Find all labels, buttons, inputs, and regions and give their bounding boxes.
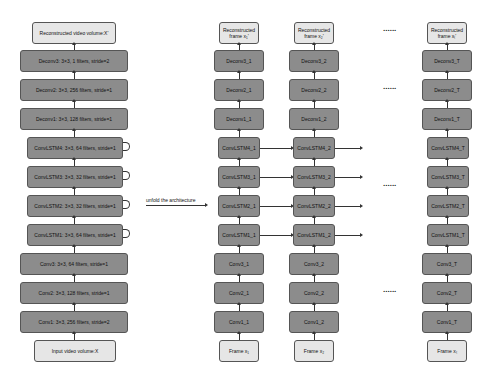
layer-conv3: Conv3: 3×3, 64 filters, stride=1 [20,253,128,275]
arrow-up [447,44,448,50]
ellipsis: ...... [383,24,396,33]
arrow-up [239,72,240,79]
arrow-up [74,246,75,253]
arrow-up [447,333,448,340]
arrow-up [447,159,448,166]
layer-deconv3: Deconv3: 3×3, 1 filters, stride=2 [20,50,128,72]
layer-conv3-2: Conv3_2 [289,253,339,275]
recurrent-loop-icon [123,229,130,238]
arrow-up [74,159,75,166]
layer-convlstm4: ConvLSTM4: 3×3, 64 filters, stride=1 [27,137,123,159]
layer-conv1: Conv1: 3×3, 256 filters, stride=2 [20,311,128,333]
layer-convlstm2-1: ConvLSTM2_1 [218,195,260,217]
arrow-up [239,275,240,282]
layer-convlstm2-2: ConvLSTM2_2 [293,195,335,217]
arrow-up [239,217,240,224]
layer-convlstm4-t: ConvLSTM4_T [427,137,469,159]
arrow-up [447,246,448,253]
arrow-up [314,333,315,340]
layer-deconv3-2: Deconv3_2 [289,50,339,72]
layer-convlstm3-2: ConvLSTM3_2 [293,166,335,188]
arrow-right [260,177,292,178]
layer-deconv3-1: Deconv3_1 [214,50,264,72]
arrow-up [74,275,75,282]
arrow-up [74,333,75,340]
arrow-right [260,235,292,236]
arrow-up [74,304,75,311]
arrow-right [260,148,292,149]
arrow-up [314,44,315,50]
layer-convlstm1-1: ConvLSTM1_1 [218,224,260,246]
arrow-up [314,304,315,311]
arrow-up [239,246,240,253]
arrow-right [260,206,292,207]
arrow-up [314,275,315,282]
arrow-right [335,235,361,236]
layer-deconv2-1: Deconv2_1 [214,79,264,101]
layer-deconv1-t: Deconv1_T [422,108,472,130]
arrow-up [239,101,240,108]
layer-deconv3-t: Deconv3_T [422,50,472,72]
arrow-up [314,188,315,195]
layer-conv1-t: Conv1_T [422,311,472,333]
layer-deconv2-2: Deconv2_2 [289,79,339,101]
layer-convlstm3-1: ConvLSTM3_1 [218,166,260,188]
layer-conv1-1: Conv1_1 [214,311,264,333]
arrow-up [447,72,448,79]
arrow-up [314,130,315,137]
arrow-up [239,333,240,340]
layer-convlstm1-2: ConvLSTM1_2 [293,224,335,246]
output-frame-t: Reconstructed frame xₜ' [427,22,467,44]
arrow-up [239,44,240,50]
layer-convlstm1: ConvLSTM1: 3×3, 64 filters, stride=1 [27,224,123,246]
layer-deconv2: Deconv2: 3×3, 256 filters, stride=1 [20,79,128,101]
input-frame-1: Frame x₁ [219,340,259,362]
input-frame-2: Frame x₂ [294,340,334,362]
arrow-up [74,72,75,79]
arrow-up [447,304,448,311]
unfold-label: unfold the architecture [146,197,195,203]
arrow-up [314,159,315,166]
arrow-right [335,177,361,178]
layer-convlstm4-2: ConvLSTM4_2 [293,137,335,159]
arrow-up [447,101,448,108]
layer-conv3-t: Conv3_T [422,253,472,275]
layer-conv2-2: Conv2_2 [289,282,339,304]
arrow-up [447,217,448,224]
ellipsis: ...... [383,82,396,91]
arrow-up [314,217,315,224]
layer-conv2-t: Conv2_T [422,282,472,304]
recurrent-loop-icon [123,171,130,180]
layer-convlstm3-t: ConvLSTM3_T [427,166,469,188]
arrow-up [74,188,75,195]
input-video-volume: Input video volume:X [34,340,116,362]
ellipsis: ...... [383,285,396,294]
layer-convlstm2-t: ConvLSTM2_T [427,195,469,217]
output-video-volume: Reconstructed video volume:X' [32,22,116,44]
recurrent-loop-icon [123,142,130,151]
layer-deconv1: Deconv1: 3×3, 128 filters, stride=1 [20,108,128,130]
layer-conv2: Conv2: 3×3, 128 filters, stride=1 [20,282,128,304]
layer-conv1-2: Conv1_2 [289,311,339,333]
ellipsis: ...... [383,179,396,188]
layer-convlstm2: ConvLSTM2: 3×3, 32 filters, stride=1 [27,195,123,217]
layer-deconv1-1: Deconv1_1 [214,108,264,130]
unfold-arrow [146,205,206,206]
output-frame-1: Reconstructed frame x₁' [219,22,259,44]
arrow-up [447,275,448,282]
arrow-up [239,188,240,195]
layer-convlstm4-1: ConvLSTM4_1 [218,137,260,159]
recurrent-loop-icon [123,200,130,209]
layer-convlstm3: ConvLSTM3: 3×3, 32 filters, stride=1 [27,166,123,188]
arrow-up [239,159,240,166]
arrow-up [447,130,448,137]
arrow-up [447,188,448,195]
output-frame-2: Reconstructed frame x₂' [294,22,334,44]
layer-deconv1-2: Deconv1_2 [289,108,339,130]
layer-conv3-1: Conv3_1 [214,253,264,275]
input-frame-t: Frame xₜ [427,340,467,362]
arrow-up [314,72,315,79]
arrow-up [239,130,240,137]
arrow-right [335,206,361,207]
arrow-up [239,304,240,311]
